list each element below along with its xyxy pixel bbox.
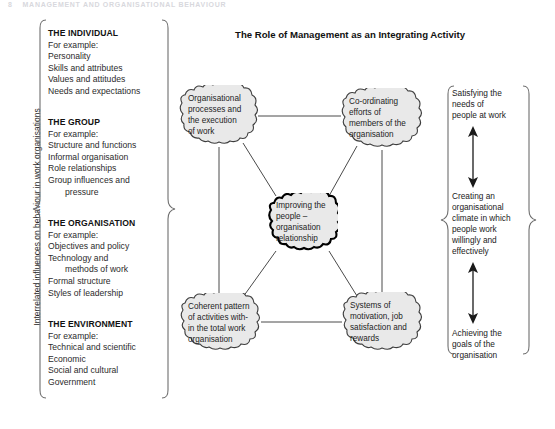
outcome-line: organisation: [452, 350, 518, 361]
diagram-page: 8MANAGEMENT AND ORGANISATIONAL BEHAVIOUR…: [0, 0, 555, 429]
node-line: Organisational: [188, 94, 252, 105]
diag-bottom-right: [329, 251, 357, 296]
node-line: members of the: [349, 119, 418, 130]
node-line: organisation: [276, 223, 331, 234]
outcome-creating-climate: Creating an organisational climate in wh…: [452, 191, 518, 257]
node-line: organisation: [349, 130, 418, 141]
node-line: the execution: [188, 116, 252, 127]
node-line: rewards: [350, 334, 417, 345]
outcome-achieving-goals: Achieving the goals of the organisation: [452, 328, 518, 361]
outcome-line: people work: [452, 224, 518, 235]
node-line: Coherent pattern: [188, 302, 255, 313]
node-line: satisfaction and: [350, 323, 417, 334]
outcome-line: Achieving the: [452, 328, 518, 339]
outcome-line: Satisfying the: [452, 88, 518, 99]
outcome-arrow-upper-icon: [466, 126, 480, 188]
node-line: efforts of: [349, 108, 418, 119]
node-systems-of-motivation[interactable]: Systems of motivation, job satisfaction …: [341, 292, 424, 353]
outcome-line: organisational: [452, 202, 518, 213]
node-line: of work: [188, 127, 252, 138]
node-line: of activities with-: [188, 313, 255, 324]
node-line: in the total work: [188, 324, 255, 335]
outcome-line: needs of: [452, 99, 518, 110]
outcome-line: willingly and: [452, 235, 518, 246]
node-line: processes and: [188, 105, 252, 116]
node-label: Organisational processes and the executi…: [188, 94, 252, 138]
node-line: organisation: [188, 335, 255, 346]
outcome-line: goals of the: [452, 339, 518, 350]
node-coordinating-efforts[interactable]: Co-ordinating efforts of members of the …: [340, 88, 425, 151]
outcome-line: climate in which: [452, 213, 518, 224]
node-line: relationship: [276, 234, 331, 245]
node-improving-people-organisation-relationship[interactable]: Improving the people – organisation rela…: [268, 193, 338, 253]
node-line: motivation, job: [350, 312, 417, 323]
outcome-satisfying-needs: Satisfying the needs of people at work: [452, 88, 518, 121]
diag-top-right: [329, 146, 357, 196]
node-organisational-processes[interactable]: Organisational processes and the executi…: [179, 85, 259, 148]
right-brace-close: [521, 84, 537, 356]
node-line: Systems of: [350, 301, 417, 312]
node-label: Improving the people – organisation rela…: [276, 201, 331, 245]
diag-bottom-left: [243, 251, 276, 297]
outcome-line: people at work: [452, 110, 518, 121]
node-label: Co-ordinating efforts of members of the …: [349, 97, 418, 141]
node-line: people –: [276, 212, 331, 223]
node-coherent-pattern-activities[interactable]: Coherent pattern of activities with- in …: [179, 293, 262, 353]
node-label: Systems of motivation, job satisfaction …: [350, 301, 417, 345]
outcome-line: effectively: [452, 246, 518, 257]
outcome-arrow-lower-icon: [466, 262, 480, 324]
node-line: Co-ordinating: [349, 97, 418, 108]
node-line: Improving the: [276, 201, 331, 212]
diag-top-left: [243, 143, 276, 196]
outcome-line: Creating an: [452, 191, 518, 202]
node-label: Coherent pattern of activities with- in …: [188, 302, 255, 346]
